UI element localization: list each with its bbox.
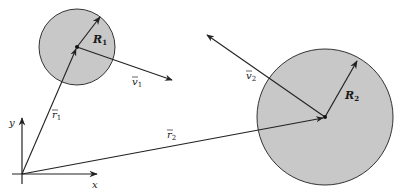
velocity-2-label: v2 — [246, 70, 256, 83]
velocity-1-label: v1 — [132, 76, 142, 89]
two-body-diagram: R1 v1 R2 v2 x y r1 r2 — [0, 0, 401, 195]
position-2-label: r2 — [167, 129, 176, 142]
coordinate-axes: x y — [8, 117, 98, 190]
body-2: R2 v2 — [207, 35, 393, 185]
y-axis-label: y — [8, 117, 15, 128]
x-axis-label: x — [92, 179, 98, 190]
body-1-center — [75, 45, 79, 49]
body-2-center — [323, 115, 327, 119]
position-1-label: r1 — [52, 109, 61, 122]
body-1: R1 v1 — [39, 9, 172, 89]
